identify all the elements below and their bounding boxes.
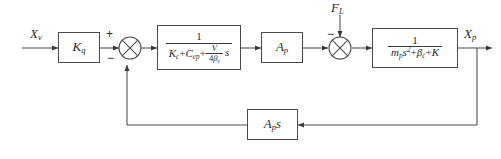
- mechanical-dynamics-block[interactable]: 1 mps2+βc+K: [372, 28, 458, 68]
- valve-dynamics-block[interactable]: 1 Kc+Cep+V4βes: [157, 25, 241, 70]
- mechanical-transfer-function: 1 mps2+βc+K: [388, 35, 442, 61]
- area-gain-block-ap[interactable]: Ap: [261, 32, 303, 63]
- sum2-minus-sign: −: [327, 28, 334, 40]
- input-signal-label: Xv: [30, 26, 42, 42]
- feedback-block-aps[interactable]: Aps: [247, 109, 298, 140]
- feedback-block-label: Aps: [264, 116, 281, 132]
- block-diagram: Xv Xp FL + − − Kq 1 Kc+Cep+V4βes Ap 1 mp…: [0, 0, 501, 159]
- valve-numerator: 1: [193, 31, 205, 43]
- gain-block-kq[interactable]: Kq: [58, 32, 100, 63]
- disturbance-signal-label: FL: [331, 0, 344, 16]
- sum1-minus-sign: −: [107, 52, 114, 64]
- valve-denominator: Kc+Cep+V4βes: [166, 43, 233, 65]
- mechanical-numerator: 1: [409, 35, 421, 47]
- gain-block-label: Kq: [73, 39, 86, 55]
- valve-transfer-function: 1 Kc+Cep+V4βes: [166, 31, 233, 64]
- valve-volume-fraction: V4βe: [206, 44, 223, 65]
- mechanical-denominator: mps2+βc+K: [388, 46, 442, 61]
- output-signal-label: Xp: [464, 26, 476, 42]
- area-gain-label: Ap: [276, 39, 288, 55]
- sum1-plus-sign: +: [106, 28, 113, 40]
